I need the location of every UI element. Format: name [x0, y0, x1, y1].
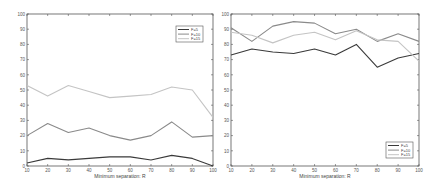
x-tick-label: 90 — [190, 168, 196, 173]
x-axis-label: Minimum separation: R — [94, 173, 146, 179]
y-tick-label: 20 — [20, 133, 26, 138]
y-tick-label: 40 — [20, 103, 26, 108]
x-tick-label: 10 — [228, 168, 234, 173]
y-tick-label: 70 — [20, 57, 26, 62]
legend: F=5F=10F=15 — [386, 142, 413, 158]
y-tick-label: 10 — [224, 149, 230, 154]
right-chart-svg: 0102030405060708090100102030405060708090… — [220, 0, 440, 188]
x-tick-label: 20 — [249, 168, 255, 173]
x-tick-label: 30 — [270, 168, 276, 173]
left-chart: 0102030405060708090100102030405060708090… — [0, 0, 220, 188]
y-tick-label: 90 — [224, 27, 230, 32]
x-tick-label: 10 — [24, 168, 30, 173]
y-tick-label: 30 — [20, 118, 26, 123]
left-chart-svg: 0102030405060708090100102030405060708090… — [0, 0, 220, 188]
x-tick-label: 40 — [86, 168, 92, 173]
y-tick-label: 80 — [20, 42, 26, 47]
x-tick-label: 70 — [354, 168, 360, 173]
y-tick-label: 50 — [224, 88, 230, 93]
x-tick-label: 100 — [209, 168, 217, 173]
x-tick-label: 20 — [45, 168, 51, 173]
y-tick-label: 80 — [224, 42, 230, 47]
y-tick-label: 100 — [221, 12, 229, 17]
right-chart: 0102030405060708090100102030405060708090… — [220, 0, 440, 188]
x-tick-label: 80 — [375, 168, 381, 173]
y-tick-label: 50 — [20, 88, 26, 93]
legend-label: F=15 — [191, 36, 201, 41]
x-tick-label: 100 — [415, 168, 423, 173]
y-tick-label: 70 — [224, 57, 230, 62]
y-tick-label: 60 — [20, 73, 26, 78]
y-tick-label: 40 — [224, 103, 230, 108]
x-tick-label: 40 — [291, 168, 297, 173]
x-tick-label: 70 — [148, 168, 154, 173]
y-tick-label: 20 — [224, 133, 230, 138]
x-tick-label: 90 — [396, 168, 402, 173]
y-tick-label: 90 — [20, 27, 26, 32]
y-tick-label: 10 — [20, 149, 26, 154]
y-tick-label: 60 — [224, 73, 230, 78]
x-tick-label: 80 — [169, 168, 175, 173]
y-tick-label: 100 — [17, 12, 25, 17]
legend-label: F=15 — [401, 152, 411, 157]
x-tick-label: 30 — [66, 168, 72, 173]
y-tick-label: 30 — [224, 118, 230, 123]
x-axis-label: Minimum separation: R — [299, 173, 351, 179]
legend: F=5F=10F=15 — [176, 26, 203, 42]
